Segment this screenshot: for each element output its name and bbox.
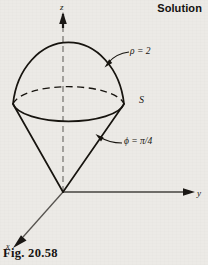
cone-left-edge xyxy=(13,104,63,192)
z-axis-label: z xyxy=(60,2,64,12)
equator-back-arc-dashed xyxy=(13,87,124,104)
y-axis-label: y xyxy=(197,188,201,198)
spherical-coordinates-diagram xyxy=(0,0,208,265)
rho-annotation: ρ = 2 xyxy=(130,46,150,56)
rho-leader-line xyxy=(108,52,129,63)
y-axis-arrowhead xyxy=(183,188,195,196)
hemisphere-dome-arc xyxy=(13,42,124,104)
x-axis-line xyxy=(23,192,63,237)
surface-s-label: S xyxy=(139,94,144,105)
figure-page: Solution z y x ρ = 2 S ϕ = π/4 xyxy=(0,0,208,265)
phi-annotation: ϕ = π/4 xyxy=(124,136,152,146)
figure-caption: Fig. 20.58 xyxy=(3,246,58,261)
cone-right-edge xyxy=(63,104,124,192)
equator-front-arc xyxy=(13,104,124,121)
